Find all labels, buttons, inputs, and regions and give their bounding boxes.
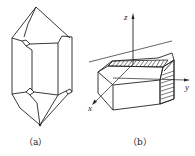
- figure-a-crystal: [12, 7, 72, 126]
- figure-b-block: [89, 13, 190, 110]
- caption-b: （b）: [128, 135, 152, 148]
- crystal-diagram: [0, 0, 195, 156]
- y-axis-label: y: [185, 82, 189, 92]
- x-axis-label: x: [88, 103, 92, 113]
- z-axis-label: z: [124, 12, 128, 22]
- caption-a: （a）: [24, 135, 47, 148]
